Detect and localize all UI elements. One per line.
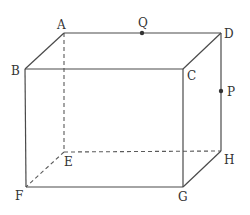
label-A: A (56, 18, 66, 32)
edge-AB (25, 33, 64, 69)
label-B: B (11, 64, 20, 78)
edge-EF (26, 152, 64, 187)
edge-BF (25, 69, 26, 187)
label-G: G (178, 190, 188, 204)
label-P: P (227, 85, 235, 99)
label-Q: Q (138, 16, 148, 30)
edge-GH (183, 151, 221, 187)
edge-CD (183, 33, 221, 69)
cuboid-diagram: A B C D E F G H Q P (0, 0, 250, 215)
point-Q (140, 31, 144, 35)
label-F: F (15, 189, 23, 203)
label-D: D (224, 27, 234, 41)
label-E: E (64, 155, 73, 169)
edge-EH (64, 151, 221, 152)
label-C: C (187, 69, 196, 83)
label-H: H (224, 153, 234, 167)
point-P (219, 89, 223, 93)
